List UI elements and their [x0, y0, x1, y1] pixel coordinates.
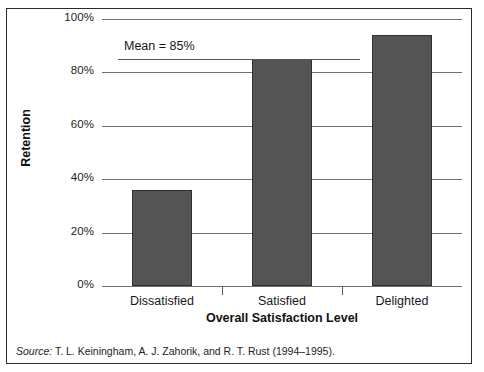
y-axis-title: Retention: [19, 109, 33, 167]
y-axis-tick-label: 60%: [34, 118, 94, 130]
clipped-title-remnant: [150, 0, 350, 6]
gridline: [102, 286, 462, 287]
x-axis-category-label: Dissatisfied: [102, 294, 222, 308]
source-citation: T. L. Keiningham, A. J. Zahorik, and R. …: [52, 345, 335, 357]
mean-line-label: Mean = 85%: [124, 39, 195, 53]
figure-container: Retention Overall Satisfaction Level Sou…: [0, 0, 484, 372]
y-axis-tick-label: 100%: [34, 11, 94, 23]
bar-satisfied: [252, 59, 312, 286]
x-axis-title: Overall Satisfaction Level: [102, 311, 462, 325]
y-axis-tick-label: 20%: [34, 225, 94, 237]
y-axis-tick-label: 80%: [34, 64, 94, 76]
x-axis-category-label: Satisfied: [222, 294, 342, 308]
y-axis-tick-label: 0%: [34, 278, 94, 290]
plot-area: [102, 19, 462, 286]
bar-delighted: [372, 35, 432, 286]
y-axis-tick-label: 40%: [34, 171, 94, 183]
gridline: [102, 19, 462, 20]
source-prefix: Source:: [16, 345, 52, 357]
mean-line: [118, 59, 360, 60]
x-axis-category-label: Delighted: [342, 294, 462, 308]
bar-dissatisfied: [132, 190, 192, 286]
source-note: Source: T. L. Keiningham, A. J. Zahorik,…: [16, 345, 335, 357]
